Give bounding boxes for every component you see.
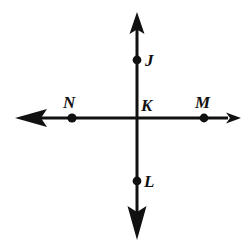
point-label-J: J: [145, 52, 154, 69]
point-label-M: M: [195, 94, 210, 111]
point-dot-N: [67, 113, 76, 122]
point-label-L: L: [144, 173, 154, 190]
point-label-K: K: [141, 97, 152, 114]
point-dot-J: [133, 56, 142, 65]
figure-canvas: [0, 0, 250, 250]
arrowhead-right-icon: [226, 113, 241, 124]
point-dot-M: [200, 114, 209, 123]
point-dot-L: [133, 177, 142, 186]
geometry-figure: J K M N L: [0, 0, 250, 250]
point-label-N: N: [63, 94, 75, 111]
